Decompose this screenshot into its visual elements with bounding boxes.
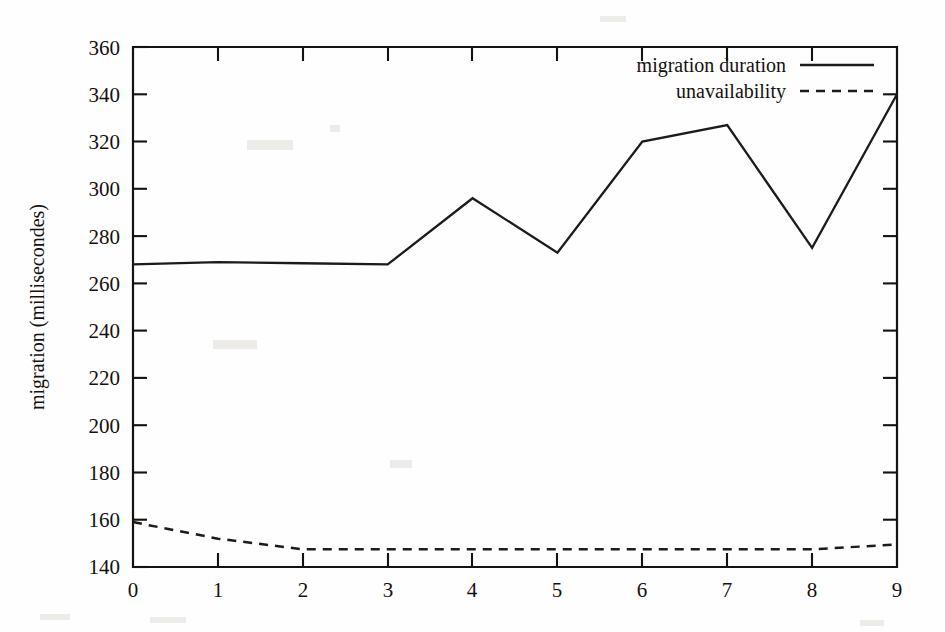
plot-frame: [133, 47, 897, 567]
y-tick-label: 360: [89, 36, 121, 60]
y-tick-label: 280: [89, 225, 121, 249]
y-tick-label: 320: [89, 130, 121, 154]
line-chart: 360 340 320 300 280 260 240 220 200 180 …: [0, 0, 945, 632]
y-tick-labels: 360 340 320 300 280 260 240 220 200 180 …: [89, 36, 121, 579]
series-unavailability: [133, 522, 897, 549]
x-tick-label: 3: [383, 578, 394, 602]
y-tick-label: 200: [89, 414, 121, 438]
series-migration-duration: [133, 94, 897, 264]
chart-page: 360 340 320 300 280 260 240 220 200 180 …: [0, 0, 945, 632]
y-tick-label: 300: [89, 177, 121, 201]
x-tick-label: 1: [213, 578, 224, 602]
x-tick-label: 8: [807, 578, 818, 602]
x-tick-label: 4: [467, 578, 478, 602]
y-axis-title: migration (millisecondes): [26, 204, 49, 410]
y-tick-label: 260: [89, 272, 121, 296]
x-tick-labels: 0 1 2 3 4 5 6 7 8 9: [128, 578, 903, 602]
legend-label-unavailability: unavailability: [676, 80, 786, 103]
x-tick-label: 7: [722, 578, 733, 602]
y-tick-label: 180: [89, 461, 121, 485]
y-tick-label: 220: [89, 366, 121, 390]
y-axis-ticks: [133, 47, 897, 567]
x-tick-label: 0: [128, 578, 139, 602]
y-tick-label: 140: [89, 555, 121, 579]
y-tick-label: 240: [89, 319, 121, 343]
y-tick-label: 160: [89, 508, 121, 532]
legend-label-migration-duration: migration duration: [637, 54, 786, 77]
x-tick-label: 2: [298, 578, 309, 602]
y-tick-label: 340: [89, 83, 121, 107]
legend: migration duration unavailability: [637, 54, 874, 103]
x-tick-label: 5: [552, 578, 563, 602]
x-tick-label: 9: [892, 578, 903, 602]
x-tick-label: 6: [637, 578, 648, 602]
